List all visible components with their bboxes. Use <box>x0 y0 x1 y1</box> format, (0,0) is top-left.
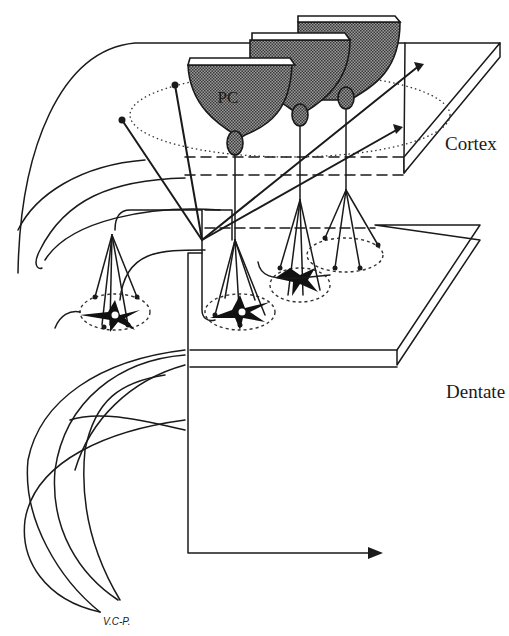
label-purkinje-cell: PC <box>218 88 239 107</box>
label-dentate: Dentate <box>446 381 505 402</box>
label-cortex: Cortex <box>445 133 497 154</box>
cerebellar-folia-curves <box>18 43 405 612</box>
dentate-neuron-3 <box>258 200 330 302</box>
dentate-neuron-1 <box>55 235 150 332</box>
artist-signature: V.C-P. <box>103 616 130 627</box>
purkinje-cell-1: PC <box>188 58 295 240</box>
axon-trunk <box>115 210 232 321</box>
dentate-neuron-4 <box>307 190 383 272</box>
dentate-neuron-2 <box>205 240 275 330</box>
cerebellar-circuit-diagram: PC <box>0 0 509 636</box>
